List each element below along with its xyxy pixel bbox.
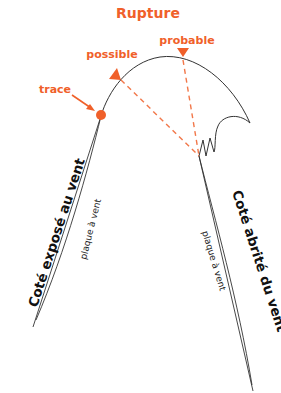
label-windward-side: Coté exposé au vent	[25, 155, 88, 308]
avalanche-slab-diagram: Rupture probable possible trace Coté exp…	[0, 0, 281, 393]
trace-dot	[96, 110, 106, 120]
probable-marker-icon	[177, 48, 189, 57]
diagram-title: Rupture	[116, 5, 180, 21]
label-slab-left: plaque à vent	[78, 197, 103, 260]
label-probable: probable	[159, 34, 214, 47]
probable-fracture-line	[183, 60, 199, 156]
trace-arrow-icon	[72, 95, 95, 111]
label-trace: trace	[39, 83, 71, 96]
possible-fracture-line	[121, 80, 199, 156]
possible-marker-icon	[109, 68, 121, 80]
slope-outline	[101, 56, 250, 156]
label-leeward-side: Coté abrité du vent	[229, 188, 281, 334]
label-slab-right: plaque à vent	[200, 230, 228, 293]
label-possible: possible	[86, 48, 137, 61]
